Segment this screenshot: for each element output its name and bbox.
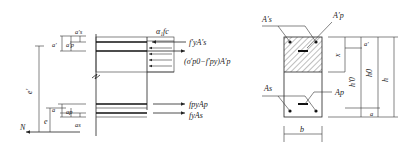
label-a-s: as (75, 121, 81, 128)
label-A-prime-s: A′s (261, 15, 272, 24)
break-symbol (92, 74, 100, 79)
label-concrete-stress: α₁fc (156, 27, 169, 36)
label-N: N (19, 123, 26, 132)
label-a-prime: a′ (52, 41, 57, 48)
label-b: b (300, 125, 304, 134)
cross-section: A′s A′p As Ap b x a′ h′0 h0 a h (261, 11, 398, 142)
label-e-prime: e′ (25, 88, 34, 94)
label-h0: h0 (365, 69, 374, 77)
label-x: x (333, 53, 342, 58)
label-tens-steel-force: fyAs (189, 111, 203, 120)
label-a-prime-p: a′p (66, 41, 75, 48)
label-A-p: Ap (334, 88, 344, 97)
label-a-prime-s: a′s (75, 28, 83, 35)
label-a: a (52, 106, 55, 113)
label-h: h (381, 78, 390, 82)
label-prestress-tens-force: fpyAp (189, 100, 208, 109)
label-comp-steel-force: f′yA′s (189, 38, 206, 47)
label-prestress-comp-force: (σ′p0−f′py)A′p (184, 57, 231, 66)
label-A-s: As (263, 84, 272, 93)
label-h0-prime: h′0 (348, 77, 357, 87)
label-A-prime-p: A′p (332, 11, 344, 20)
label-a-p: ap (66, 108, 73, 115)
label-e: e (44, 117, 48, 126)
label-a-right: a (370, 110, 373, 117)
label-a-prime-right: a′ (364, 40, 369, 47)
prestressed-section-diagram: α₁fc f′yA′s (σ′p0−f′py)A′p fpyAp fyAs N … (0, 0, 414, 154)
force-diagram: α₁fc f′yA′s (σ′p0−f′py)A′p fpyAp fyAs N … (19, 27, 231, 136)
